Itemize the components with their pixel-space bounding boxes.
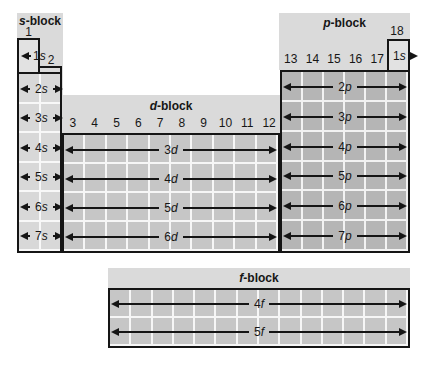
arrow-right-icon [269, 204, 277, 212]
arrow-left-icon [65, 175, 73, 183]
arrow-line [183, 207, 269, 209]
arrow-left-icon [20, 85, 28, 93]
orbital-row-2s: 2s [20, 74, 59, 104]
arrow-line [269, 331, 399, 333]
f-block-label: f-block [108, 271, 410, 285]
arrow-line [357, 146, 399, 148]
arrow-left-icon [283, 83, 291, 91]
orbital-label-7p: 7p [333, 230, 356, 242]
arrow-line [291, 146, 333, 148]
orbital-row-4p: 4p [283, 132, 407, 162]
orbital-label-1s: 1s [391, 50, 408, 62]
orbital-blocks-diagram: s-block d-block p-block f-block 1 2 18 3… [0, 0, 431, 367]
hydrogen-1s-cell: 1s [17, 38, 40, 74]
arrow-right-icon [399, 328, 407, 336]
arrow-left-icon [65, 146, 73, 154]
arrow-line [357, 175, 399, 177]
arrow-left-icon [283, 232, 291, 240]
orbital-row-3s: 3s [20, 104, 59, 134]
arrow-right-icon [410, 52, 418, 60]
arrow-left-icon [21, 52, 29, 60]
f-block-grid: 4f 5f [108, 288, 410, 348]
arrow-line [291, 235, 333, 237]
arrow-left-icon [283, 172, 291, 180]
orbital-label-6p: 6p [333, 200, 356, 212]
orbital-row-5p: 5p [283, 162, 407, 192]
group-number-7: 7 [149, 116, 171, 132]
group-number-10: 10 [215, 116, 237, 132]
arrow-line [357, 235, 399, 237]
arrow-right-icon [269, 233, 277, 241]
arrow-right-icon [269, 175, 277, 183]
orbital-label-4d: 4d [159, 173, 182, 185]
group-number-11: 11 [236, 116, 258, 132]
s-block-grid: 2s 3s 4s 5s 6s 7s [17, 72, 62, 253]
orbital-row-2p: 2p [283, 72, 407, 102]
p-block-grid: 2p 3p 4p 5p 6p 7p [280, 70, 410, 253]
orbital-label-1s: 1s [31, 50, 48, 62]
arrow-line [269, 303, 399, 305]
group-number-3: 3 [62, 116, 84, 132]
orbital-row-5f: 5f [111, 318, 407, 346]
d-block-label: d-block [62, 99, 280, 113]
group-number-17: 17 [366, 52, 388, 68]
orbital-label-2p: 2p [333, 81, 356, 93]
arrow-right-icon [399, 202, 407, 210]
s-block-step-line [38, 66, 62, 68]
helium-1s-cell: 1s [387, 39, 410, 72]
orbital-row-7s: 7s [20, 221, 59, 251]
arrow-right-icon [55, 85, 63, 93]
orbital-label-5s: 5s [30, 171, 53, 183]
arrow-right-icon [399, 300, 407, 308]
orbital-row-6p: 6p [283, 191, 407, 221]
group-number-16: 16 [345, 52, 367, 68]
arrow-left-icon [283, 202, 291, 210]
arrow-left-icon [20, 144, 28, 152]
arrow-line [357, 86, 399, 88]
orbital-row-3d: 3d [65, 135, 277, 164]
arrow-line [73, 178, 159, 180]
orbital-label-6d: 6d [159, 231, 182, 243]
orbital-label-4p: 4p [333, 141, 356, 153]
arrow-line [291, 116, 333, 118]
orbital-row-4d: 4d [65, 164, 277, 193]
arrow-line [73, 149, 159, 151]
orbital-row-6d: 6d [65, 222, 277, 251]
arrow-left-icon [20, 232, 28, 240]
group-number-13: 13 [280, 52, 302, 68]
group-number-4: 4 [84, 116, 106, 132]
arrow-right-icon [55, 114, 63, 122]
arrow-line [183, 236, 269, 238]
orbital-label-3p: 3p [333, 111, 356, 123]
group-number-15: 15 [323, 52, 345, 68]
group-number-6: 6 [127, 116, 149, 132]
arrow-left-icon [65, 204, 73, 212]
orbital-label-5f: 5f [249, 326, 269, 338]
group-number-9: 9 [193, 116, 215, 132]
group-number-14: 14 [302, 52, 324, 68]
arrow-left-icon [111, 300, 119, 308]
p-block-group-numbers: 13 14 15 16 17 [280, 52, 388, 68]
orbital-row-5d: 5d [65, 193, 277, 222]
orbital-row-5s: 5s [20, 163, 59, 193]
arrow-left-icon [65, 233, 73, 241]
arrow-right-icon [399, 232, 407, 240]
orbital-label-3s: 3s [30, 112, 53, 124]
arrow-right-icon [399, 143, 407, 151]
orbital-label-3d: 3d [159, 144, 182, 156]
arrow-line [291, 205, 333, 207]
arrow-line [291, 86, 333, 88]
arrow-line [73, 207, 159, 209]
group-number-5: 5 [106, 116, 128, 132]
orbital-label-6s: 6s [30, 201, 53, 213]
group-number-18: 18 [384, 24, 410, 38]
group-number-12: 12 [258, 116, 280, 132]
arrow-right-icon [269, 146, 277, 154]
arrow-line [357, 116, 399, 118]
orbital-label-4f: 4f [249, 298, 269, 310]
arrow-left-icon [283, 113, 291, 121]
arrow-right-icon [399, 83, 407, 91]
arrow-right-icon [399, 172, 407, 180]
d-block-group-numbers: 3 4 5 6 7 8 9 10 11 12 [62, 116, 280, 132]
orbital-label-4s: 4s [30, 142, 53, 154]
